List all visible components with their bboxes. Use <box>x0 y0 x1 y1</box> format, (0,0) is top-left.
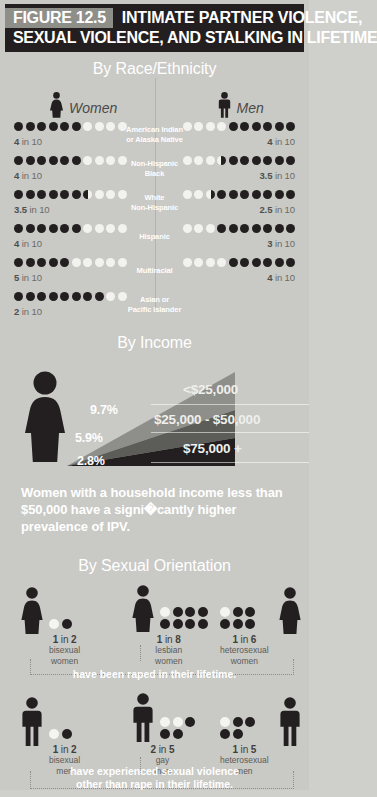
orientation-dot-grid <box>160 607 208 634</box>
woman-group-icon <box>130 585 156 633</box>
race-dot <box>252 224 261 233</box>
women-dot-line <box>14 224 127 233</box>
orientation-dot <box>198 607 208 617</box>
orientation-dot <box>160 607 170 617</box>
women-dots-group: 5 in 10 <box>5 258 124 283</box>
orientation-group-art <box>220 697 269 743</box>
woman-icon <box>49 92 64 118</box>
woman-bookend-right-icon <box>277 587 303 635</box>
race-dot <box>14 224 23 233</box>
women-ratio: 4 in 10 <box>14 170 42 181</box>
orientation-dot <box>245 607 255 617</box>
women-ratio: 2 in 10 <box>14 306 42 317</box>
race-dot <box>229 258 238 267</box>
women-dot-line <box>14 258 127 267</box>
race-dot <box>252 190 261 199</box>
race-dot <box>217 156 226 165</box>
race-dot <box>37 122 46 131</box>
man-bookend-right-icon <box>277 697 303 747</box>
orientation-dot <box>220 619 230 629</box>
men-dots-group: 2.5 in 10 <box>185 190 304 215</box>
orientation-dot <box>220 607 230 617</box>
orientation-dot <box>62 619 72 629</box>
race-row: 4 in 10American Indianor Alaska Native4 … <box>5 118 304 152</box>
income-rule-2 <box>151 432 309 433</box>
race-dot <box>49 156 58 165</box>
race-dot <box>194 258 203 267</box>
men-ratio: 3.5 in 10 <box>259 170 295 181</box>
orientation-dot <box>173 717 183 727</box>
income-chart: 9.7% 5.9% 2.8% <$25,000 $25,000 - $50,00… <box>5 362 304 470</box>
orientation-men-block: 1 in 2bisexualmen2 in 5gaymen1 in 5heter… <box>5 693 304 797</box>
race-dot <box>206 156 215 165</box>
income-statement: Women with a household income less than … <box>5 470 304 539</box>
orientation-dot <box>220 729 230 739</box>
men-ratio: 3 in 10 <box>267 238 295 249</box>
bottom-strip <box>0 790 309 797</box>
orientation-section: By Sexual Orientation 1 in 2bisexualwome… <box>5 557 304 797</box>
race-dot <box>49 292 58 301</box>
race-row: 4 in 10Hispanic3 in 10 <box>5 220 304 254</box>
orientation-caption-line-1: lesbian <box>130 645 208 656</box>
men-dots-group: 3.5 in 10 <box>185 156 304 181</box>
race-rows-container: 4 in 10American Indianor Alaska Native4 … <box>5 118 304 322</box>
race-ethnicity-section: By Race/Ethnicity Women M <box>5 52 304 322</box>
race-dot <box>275 190 284 199</box>
race-dot <box>229 224 238 233</box>
orientation-dot <box>173 607 183 617</box>
race-dot <box>95 156 104 165</box>
men-ratio: 4 in 10 <box>267 272 295 283</box>
race-dot <box>106 292 115 301</box>
race-dot <box>240 258 249 267</box>
women-legend: Women <box>5 92 155 118</box>
orientation-dot <box>198 619 208 629</box>
race-dot <box>26 258 35 267</box>
race-dot <box>263 122 272 131</box>
orientation-dot-line <box>220 607 255 617</box>
race-dot <box>206 224 215 233</box>
orientation-ratio: 1 in 2 <box>49 634 80 645</box>
orientation-dot-line <box>160 717 195 727</box>
women-legend-label: Women <box>69 101 117 118</box>
race-dot <box>263 190 272 199</box>
orientation-dot <box>173 619 183 629</box>
orientation-dot <box>233 729 243 739</box>
race-dot <box>240 156 249 165</box>
race-dot <box>72 156 81 165</box>
orientation-dot <box>160 717 170 727</box>
orientation-caption-line-1: bisexual <box>49 645 80 656</box>
orientation-dot-line <box>220 729 255 739</box>
orientation-dot-grid <box>160 717 195 744</box>
race-group-label-line: or Alaska Native <box>124 135 185 144</box>
race-dot <box>14 292 23 301</box>
orientation-group-art <box>49 697 80 743</box>
income-rule-3 <box>151 462 309 463</box>
women-dots-group: 3.5 in 10 <box>5 190 124 215</box>
women-dot-line <box>14 156 127 165</box>
women-dot-line <box>14 122 127 131</box>
income-percent-2: 5.9% <box>75 431 103 445</box>
race-dot <box>83 122 92 131</box>
orientation-ratio: 1 in 2 <box>49 744 80 755</box>
race-dot <box>14 122 23 131</box>
women-dot-line <box>14 190 127 199</box>
race-dot <box>286 156 295 165</box>
race-dot <box>26 190 35 199</box>
race-dot <box>72 292 81 301</box>
man-group-icon <box>130 693 156 743</box>
race-dot <box>263 258 272 267</box>
race-section-title: By Race/Ethnicity <box>5 60 304 78</box>
race-dot <box>95 258 104 267</box>
race-dot <box>14 258 23 267</box>
men-dots-group: 3 in 10 <box>185 224 304 249</box>
race-dot <box>194 224 203 233</box>
race-dot <box>252 258 261 267</box>
orientation-dot <box>233 619 243 629</box>
orientation-women-caption: have been raped in their lifetime. <box>5 668 304 681</box>
income-section-title: By Income <box>5 334 304 352</box>
orientation-dot <box>185 607 195 617</box>
orientation-group-art <box>130 587 208 633</box>
race-dot <box>49 258 58 267</box>
income-bracket-1: <$25,000 <box>183 382 238 397</box>
